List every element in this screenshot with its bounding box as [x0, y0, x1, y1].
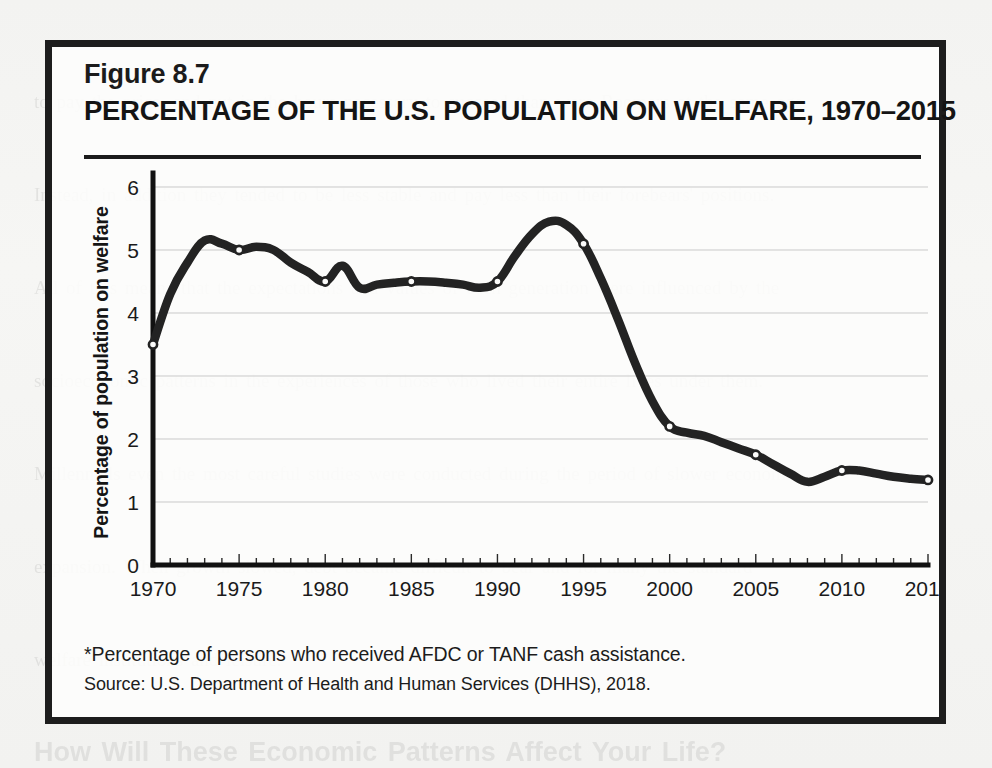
title-divider [84, 155, 921, 159]
figure-source: Source: U.S. Department of Health and Hu… [84, 674, 904, 695]
y-tick-label: 2 [127, 428, 139, 451]
x-tick-label: 1990 [474, 577, 521, 600]
data-point-marker [235, 246, 243, 254]
figure-title: PERCENTAGE OF THE U.S. POPULATION ON WEL… [84, 95, 956, 127]
figure-footnote: *Percentage of persons who received AFDC… [84, 643, 904, 666]
data-point-marker [149, 340, 157, 348]
data-point-marker [752, 451, 760, 459]
y-tick-label: 3 [127, 365, 139, 388]
figure-notes: *Percentage of persons who received AFDC… [84, 643, 904, 695]
data-point-marker [321, 277, 329, 285]
figure-number: Figure 8.7 [84, 59, 210, 90]
x-tick-label: 1995 [560, 577, 607, 600]
data-point-marker [666, 422, 674, 430]
x-tick-label: 2000 [646, 577, 693, 600]
data-point-marker [579, 240, 587, 248]
y-tick-label: 4 [127, 302, 139, 325]
x-tick-label: 2015 [905, 577, 939, 600]
x-tick-label: 2005 [732, 577, 779, 600]
plot-area: Percentage of population on welfare 0123… [52, 165, 939, 657]
x-tick-label: 1970 [130, 577, 177, 600]
x-tick-label: 1975 [216, 577, 263, 600]
x-tick-label: 2010 [819, 577, 866, 600]
data-point-marker [838, 466, 846, 474]
y-tick-label: 6 [127, 176, 139, 199]
figure-inner: Figure 8.7 PERCENTAGE OF THE U.S. POPULA… [52, 47, 939, 717]
figure-box: Figure 8.7 PERCENTAGE OF THE U.S. POPULA… [45, 40, 946, 724]
y-tick-label: 1 [127, 491, 139, 514]
data-point-marker [407, 277, 415, 285]
data-point-marker [493, 277, 501, 285]
data-point-marker [924, 476, 932, 484]
line-chart: 0123456197019751980198519901995200020052… [52, 165, 939, 657]
data-line-welfare-percentage [153, 221, 928, 482]
y-tick-label: 5 [127, 239, 139, 262]
x-tick-label: 1985 [388, 577, 435, 600]
y-tick-label: 0 [127, 554, 139, 577]
x-tick-label: 1980 [302, 577, 349, 600]
